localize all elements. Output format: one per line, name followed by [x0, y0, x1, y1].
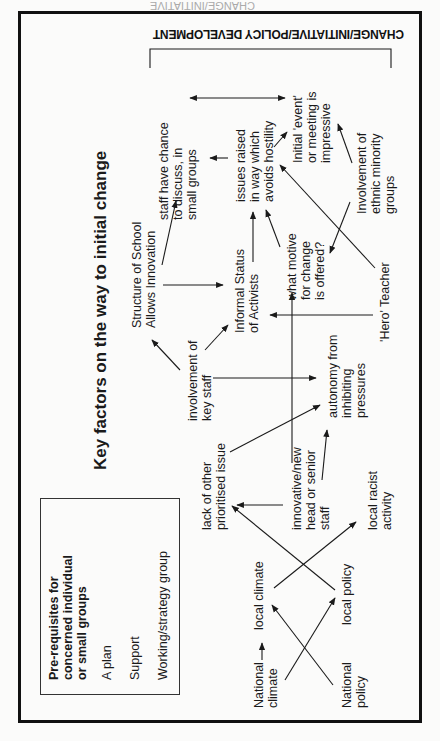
bracket — [150, 49, 391, 68]
connector-arrows — [0, 0, 440, 741]
